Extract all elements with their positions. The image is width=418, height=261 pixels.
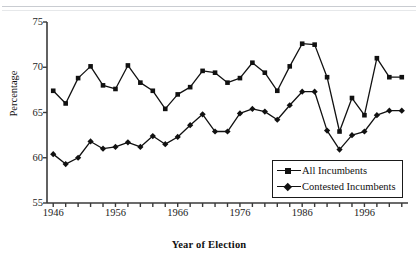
y-tick-label: 60: [21, 153, 43, 164]
x-tick-label: 1946: [33, 207, 73, 218]
y-tick-label: 75: [21, 17, 43, 28]
chart-plot: [0, 0, 418, 261]
x-axis-title: Year of Election: [0, 239, 418, 250]
x-tick-label: 1956: [95, 207, 135, 218]
y-axis-title: Percentage: [8, 54, 19, 134]
square-marker-icon: [276, 164, 302, 178]
diamond-marker-icon: [276, 180, 302, 194]
chart-legend: All Incumbents Contested Incumbents: [272, 160, 403, 198]
legend-label-contested-incumbents: Contested Incumbents: [302, 181, 396, 193]
x-tick-label: 1996: [344, 207, 384, 218]
legend-label-all-incumbents: All Incumbents: [302, 165, 367, 177]
data-series: [50, 41, 405, 167]
y-axis-tick-labels: 5560657075: [18, 0, 43, 261]
legend-item-contested-incumbents: Contested Incumbents: [276, 179, 399, 195]
chart-figure: 5560657075 194619561966197619861996 Perc…: [0, 0, 418, 261]
x-tick-label: 1986: [282, 207, 322, 218]
legend-item-all-incumbents: All Incumbents: [276, 163, 399, 179]
x-tick-label: 1976: [220, 207, 260, 218]
x-tick-label: 1966: [158, 207, 198, 218]
y-tick-label: 70: [21, 62, 43, 73]
y-tick-label: 65: [21, 108, 43, 119]
